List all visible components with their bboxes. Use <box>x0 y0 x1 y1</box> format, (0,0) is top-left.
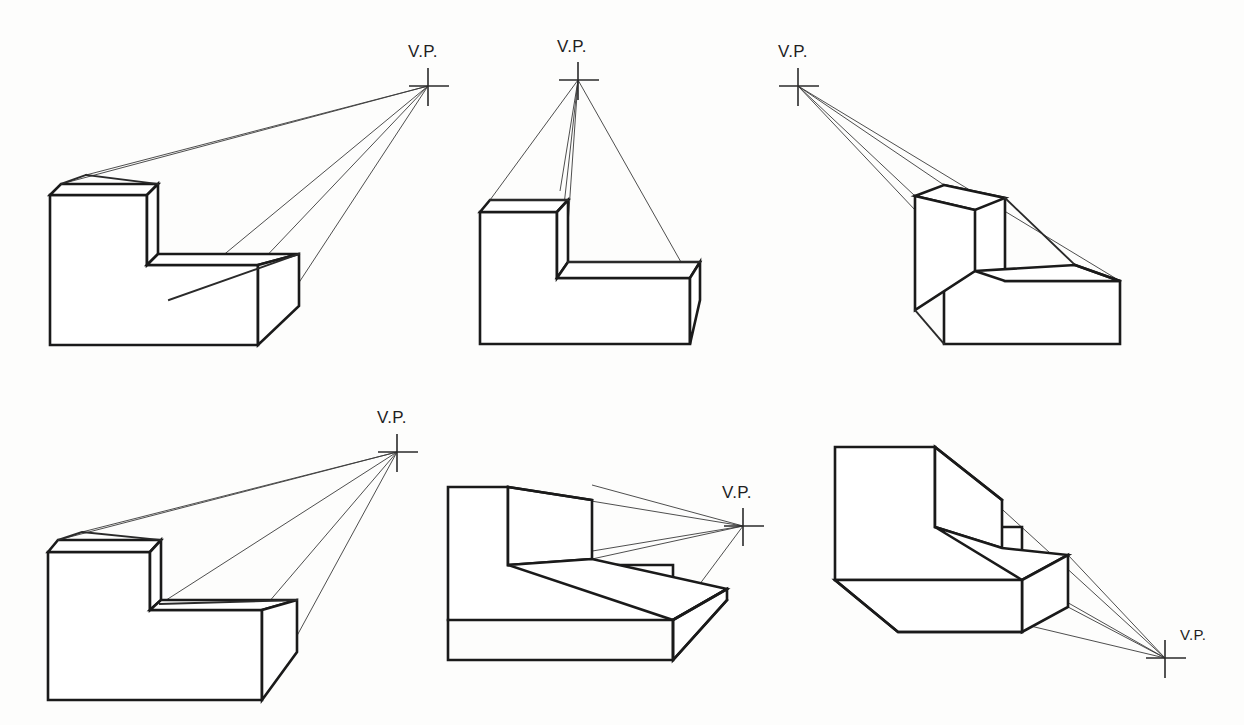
block-riser-side-face <box>150 540 161 610</box>
block-right-side-face <box>262 600 297 700</box>
figure-4-vanishing-point: V.P. <box>377 408 418 472</box>
figure-3-block <box>915 185 1120 344</box>
block-upper-top-face <box>480 200 568 212</box>
vanishing-point-label: V.P. <box>778 42 808 61</box>
figure-5: V.P. <box>448 483 764 660</box>
figure-2-block <box>480 200 700 344</box>
drawing-canvas: V.P. V.P. <box>0 0 1244 725</box>
figure-6: V.P. <box>835 447 1206 678</box>
figure-4-block <box>48 532 297 700</box>
block-lower-outline <box>448 620 673 660</box>
projector-line <box>490 80 578 200</box>
vanishing-point-label: V.P. <box>557 37 587 56</box>
figure-2: V.P. <box>480 37 700 344</box>
block-back-top-edge-left <box>61 175 86 184</box>
projector-line <box>86 86 428 175</box>
projector-line <box>798 86 944 185</box>
vanishing-point-label: V.P. <box>722 483 752 502</box>
projector-line <box>160 452 397 604</box>
perspective-drawing-sheet: V.P. V.P. <box>0 0 1244 725</box>
projector-line <box>262 452 397 610</box>
block-upper-top-face <box>48 540 161 552</box>
figure-5-vanishing-point: V.P. <box>722 483 764 546</box>
projector-line <box>82 452 397 532</box>
figure-3: V.P. <box>778 42 1120 344</box>
block-upper-top-face <box>50 184 158 195</box>
figure-5-block <box>448 487 727 660</box>
vanishing-point-crosshair-icon <box>724 508 764 546</box>
block-left-bottom-edge <box>915 310 944 344</box>
projector-line <box>1068 607 1165 658</box>
figure-1: V.P. <box>50 42 449 345</box>
vanishing-point-crosshair-icon <box>378 434 418 472</box>
vanishing-point-label: V.P. <box>1180 626 1206 643</box>
block-step-top-face <box>557 262 700 278</box>
projector-line <box>258 86 428 265</box>
figure-1-block <box>50 175 299 345</box>
figure-2-vanishing-point: V.P. <box>557 37 599 100</box>
block-right-side-face <box>258 254 299 345</box>
block-riser-side-face <box>147 184 158 265</box>
projector-line <box>560 80 578 191</box>
projector-line <box>592 526 743 559</box>
figure-1-vanishing-point: V.P. <box>408 42 449 106</box>
block-upper-receding-edge <box>1005 198 1075 265</box>
figure-6-block <box>835 447 1068 632</box>
vanishing-point-label: V.P. <box>408 42 438 61</box>
block-right-side-face <box>690 262 700 344</box>
projector-line <box>578 80 690 278</box>
projector-line <box>798 86 915 196</box>
vanishing-point-label: V.P. <box>377 408 407 427</box>
block-back-top-edge <box>86 175 158 184</box>
projector-line <box>592 485 743 526</box>
figure-4: V.P. <box>48 408 418 700</box>
block-bottom-face <box>835 580 1022 632</box>
projector-line <box>1068 555 1165 658</box>
